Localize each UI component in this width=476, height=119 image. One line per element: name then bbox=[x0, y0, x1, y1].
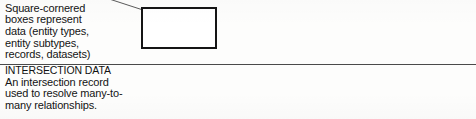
legend-entry-intersection-data-description: An intersection record used to resolve m… bbox=[5, 77, 145, 112]
description-line: many relationships. bbox=[5, 100, 145, 112]
legend-entry-data: DATA Square-cornered boxes represent dat… bbox=[0, 0, 476, 65]
leader-line bbox=[100, 0, 144, 11]
legend-entry-intersection-data-text: INTERSECTION DATA An intersection record… bbox=[5, 65, 145, 112]
rectangle-shape bbox=[141, 7, 217, 49]
square-cornered-box-symbol bbox=[141, 7, 217, 49]
description-line: records, datasets) bbox=[5, 49, 137, 61]
description-line: data (entity types, bbox=[5, 26, 137, 38]
legend-entry-intersection-data-heading: INTERSECTION DATA bbox=[5, 65, 145, 77]
legend-entry-data-description: Square-cornered boxes represent data (en… bbox=[5, 3, 137, 62]
legend-entry-intersection-data: INTERSECTION DATA An intersection record… bbox=[0, 65, 476, 119]
legend-figure: DATA Square-cornered boxes represent dat… bbox=[0, 0, 476, 119]
